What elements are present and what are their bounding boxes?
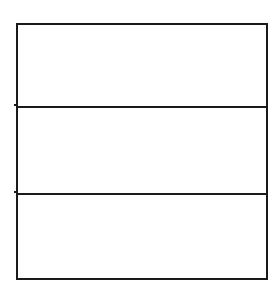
middle-cell (18, 106, 266, 193)
top-cell (18, 25, 266, 106)
outer-frame (16, 23, 268, 280)
divider-2-overhang (14, 191, 18, 193)
bottom-cell (18, 193, 266, 278)
divider-1-overhang (14, 104, 18, 106)
stacked-boxes-diagram (0, 0, 278, 286)
